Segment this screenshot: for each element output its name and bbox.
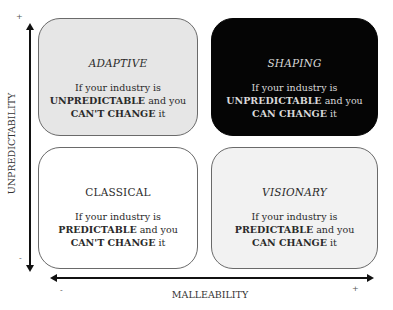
desc-end: it [155, 108, 165, 119]
quadrant-description: If your industry is UNPREDICTABLE and yo… [39, 81, 197, 120]
quadrant-shaping: SHAPING If your industry is UNPREDICTABL… [211, 18, 378, 136]
x-axis-arrow-left-icon [50, 274, 57, 282]
desc-mid: and you [313, 224, 354, 235]
desc-bold1: PREDICTABLE [58, 224, 136, 235]
desc-bold1: UNPREDICTABLE [50, 95, 145, 106]
desc-line1: If your industry is [39, 210, 197, 223]
x-axis-arrow-right-icon [367, 274, 374, 282]
y-axis-plus: + [16, 12, 23, 21]
x-axis-plus: + [352, 284, 359, 293]
quadrant-title: ADAPTIVE [39, 57, 197, 69]
desc-end: it [155, 237, 165, 248]
quadrant-adaptive: ADAPTIVE If your industry is UNPREDICTAB… [38, 18, 198, 136]
desc-bold1: PREDICTABLE [235, 224, 313, 235]
x-axis-minus: - [60, 286, 63, 295]
desc-bold1: UNPREDICTABLE [226, 95, 321, 106]
desc-line1: If your industry is [39, 81, 197, 94]
desc-mid: and you [137, 224, 178, 235]
x-axis-label: MALLEABILITY [150, 289, 270, 300]
y-axis-minus: - [19, 254, 22, 263]
desc-mid: and you [322, 95, 363, 106]
quadrant-title: VISIONARY [212, 186, 377, 198]
y-axis-arrow-up-icon [26, 23, 34, 30]
desc-bold2: CAN'T CHANGE [71, 237, 156, 248]
y-axis-line [29, 28, 31, 268]
desc-bold2: CAN CHANGE [252, 237, 327, 248]
quadrant-visionary: VISIONARY If your industry is PREDICTABL… [211, 147, 378, 269]
quadrant-description: If your industry is UNPREDICTABLE and yo… [212, 81, 377, 120]
desc-bold2: CAN'T CHANGE [71, 108, 156, 119]
x-axis-line [56, 277, 368, 279]
desc-end: it [327, 237, 337, 248]
quadrant-description: If your industry is PREDICTABLE and you … [212, 210, 377, 249]
quadrant-description: If your industry is PREDICTABLE and you … [39, 210, 197, 249]
desc-bold2: CAN CHANGE [252, 108, 327, 119]
quadrant-classical: CLASSICAL If your industry is PREDICTABL… [38, 147, 198, 269]
y-axis-label: UNPREDICTABILITY [6, 89, 17, 199]
desc-line1: If your industry is [212, 81, 377, 94]
desc-end: it [327, 108, 337, 119]
quadrant-title: CLASSICAL [39, 186, 197, 198]
desc-line1: If your industry is [212, 210, 377, 223]
quadrant-title: SHAPING [212, 57, 377, 69]
desc-mid: and you [145, 95, 186, 106]
y-axis-arrow-down-icon [26, 265, 34, 272]
